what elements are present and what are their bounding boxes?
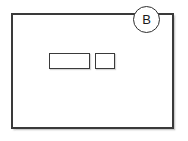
reference-callout: B [133,6,160,33]
figure-canvas: B [0,0,188,141]
narrow-rectangle [95,53,115,69]
callout-letter: B [142,13,151,26]
inner-element-row [49,53,115,69]
wide-rectangle [49,53,90,69]
